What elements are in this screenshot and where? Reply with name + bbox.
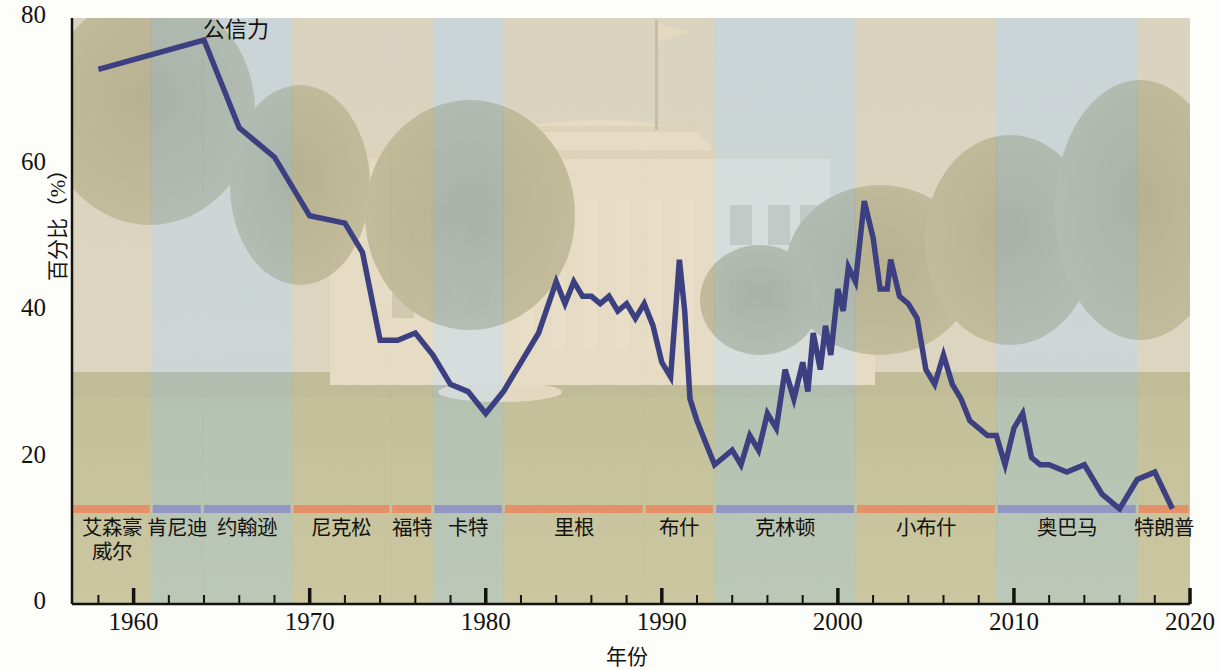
president-label: 卡特 (408, 516, 528, 540)
party-strip (204, 505, 291, 513)
y-tick-label: 80 (0, 1, 46, 29)
president-label: 小布什 (866, 516, 986, 540)
x-tick-label: 2010 (959, 608, 1069, 636)
y-tick-label: 40 (0, 294, 46, 322)
y-tick-label: 20 (0, 441, 46, 469)
president-label: 布什 (619, 516, 739, 540)
party-strip (505, 505, 643, 513)
party-strip (74, 505, 150, 513)
president-label: 特朗普 (1104, 516, 1219, 540)
party-strip (294, 505, 390, 513)
x-tick-label: 1970 (255, 608, 365, 636)
series-annotation: 公信力 (203, 11, 269, 43)
president-label: 克林顿 (725, 516, 845, 540)
y-tick-label: 0 (0, 587, 46, 615)
president-label: 里根 (514, 516, 634, 540)
y-axis-title: 百分比（%） (41, 120, 71, 320)
x-tick-label: 1990 (607, 608, 717, 636)
party-color-strips (74, 505, 1189, 513)
party-strip (153, 505, 201, 513)
party-strip (646, 505, 713, 513)
party-strip (716, 505, 854, 513)
party-strip (857, 505, 995, 513)
x-tick-label: 1960 (79, 608, 189, 636)
x-tick-label: 1980 (431, 608, 541, 636)
y-tick-label: 60 (0, 148, 46, 176)
party-strip (392, 505, 431, 513)
party-strip (1139, 505, 1189, 513)
x-axis-title: 年份 (527, 640, 727, 670)
x-tick-label: 2020 (1135, 608, 1219, 636)
party-strip (434, 505, 501, 513)
x-tick-label: 2000 (783, 608, 893, 636)
